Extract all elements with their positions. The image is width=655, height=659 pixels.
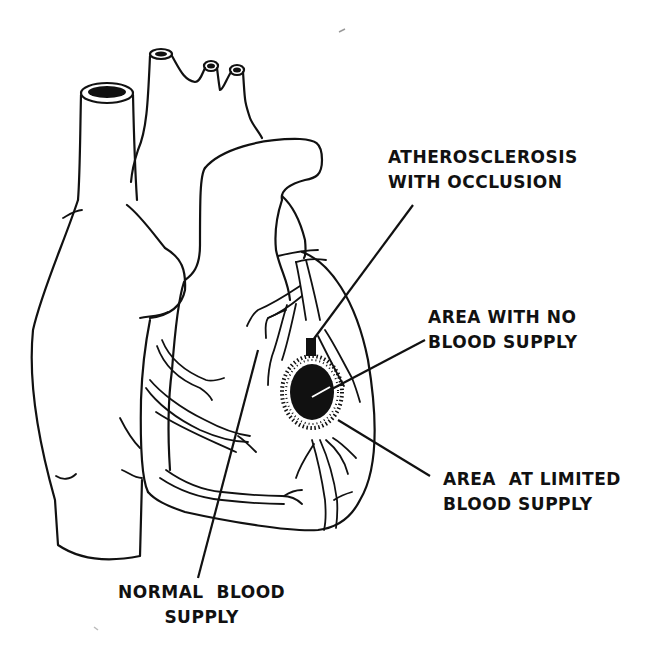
label-normal-line1: NORMAL BLOOD (118, 580, 285, 605)
label-limited-blood-supply: AREA AT LIMITED BLOOD SUPPLY (443, 467, 621, 517)
label-no-blood-supply: AREA WITH NO BLOOD SUPPLY (428, 305, 578, 355)
label-normal-line2: SUPPLY (118, 605, 285, 630)
scan-speck (339, 29, 345, 32)
vena-cava (32, 83, 142, 559)
label-normal-blood-supply: NORMAL BLOOD SUPPLY (118, 580, 285, 630)
infarct-area (282, 338, 342, 428)
label-atherosclerosis: ATHEROSCLEROSIS WITH OCCLUSION (388, 145, 578, 195)
pointer-limited-supply (338, 420, 430, 476)
label-no-supply-line1: AREA WITH NO (428, 305, 578, 330)
right-atrium (127, 205, 185, 318)
label-limited-line2: BLOOD SUPPLY (443, 492, 621, 517)
scan-speck (94, 627, 98, 630)
label-atherosclerosis-line2: WITH OCCLUSION (388, 170, 578, 195)
pulmonary-trunk (185, 139, 322, 300)
ventricles (141, 252, 375, 530)
pointer-normal-supply (198, 350, 258, 578)
label-limited-line1: AREA AT LIMITED (443, 467, 621, 492)
label-no-supply-line2: BLOOD SUPPLY (428, 330, 578, 355)
aorta (131, 49, 262, 182)
label-atherosclerosis-line1: ATHEROSCLEROSIS (388, 145, 578, 170)
pointer-atherosclerosis (313, 205, 413, 340)
